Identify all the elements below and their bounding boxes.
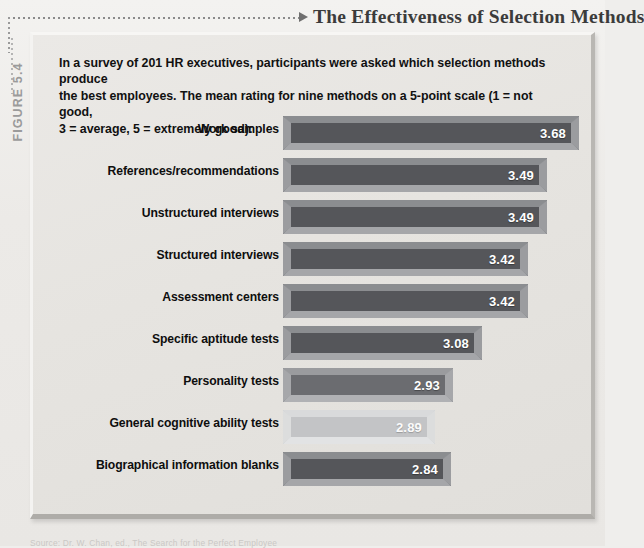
bar-top <box>283 116 579 123</box>
bar: 2.93 <box>283 368 453 402</box>
source-caption: Source: Dr. W. Chan, ed., The Search for… <box>30 538 277 548</box>
chart-row: Assessment centers3.42 <box>33 281 591 323</box>
figure-header: The Effectiveness of Selection Methods <box>0 0 605 34</box>
bar: 3.42 <box>283 284 528 318</box>
bar-category-label: Unstructured interviews <box>142 206 279 220</box>
dotted-leader-line <box>8 17 300 19</box>
figure-number-label: FIGURE 5.4 <box>11 62 25 142</box>
bar-value-label: 3.49 <box>508 158 534 192</box>
figure-title: The Effectiveness of Selection Methods <box>313 6 644 28</box>
chart-row: Structured interviews3.42 <box>33 239 591 281</box>
leader-arrow-icon <box>299 12 308 22</box>
bar-category-label: Biographical information blanks <box>96 458 279 472</box>
bar: 3.68 <box>283 116 579 150</box>
bar: 3.49 <box>283 200 547 234</box>
bar-value-label: 3.42 <box>489 242 515 276</box>
bar-category-label: Structured interviews <box>156 248 279 262</box>
intro-line-1: In a survey of 201 HR executives, partic… <box>59 55 559 88</box>
bar-category-label: Work samples <box>198 122 279 136</box>
chart-row: General cognitive ability tests2.89 <box>33 407 591 449</box>
bar-value-label: 3.42 <box>489 284 515 318</box>
figure-panel: In a survey of 201 HR executives, partic… <box>30 32 595 519</box>
bar-value-label: 2.84 <box>412 452 438 486</box>
dotted-vertical-line <box>8 17 10 53</box>
bar-value-label: 2.89 <box>396 410 422 444</box>
chart-row: Work samples3.68 <box>33 113 591 155</box>
chart-row: References/recommendations3.49 <box>33 155 591 197</box>
chart-row: Personality tests2.93 <box>33 365 591 407</box>
bar: 3.08 <box>283 326 482 360</box>
bar-bottom <box>283 143 579 150</box>
bar: 2.84 <box>283 452 451 486</box>
bar-chart: Work samples3.68References/recommendatio… <box>33 113 591 491</box>
bar: 3.42 <box>283 242 528 276</box>
bar-value-label: 2.93 <box>414 368 440 402</box>
chart-row: Specific aptitude tests3.08 <box>33 323 591 365</box>
bar-category-label: Specific aptitude tests <box>152 332 279 346</box>
bar-value-label: 3.68 <box>540 116 566 150</box>
bar: 2.89 <box>283 410 435 444</box>
bar-value-label: 3.08 <box>443 326 469 360</box>
chart-row: Unstructured interviews3.49 <box>33 197 591 239</box>
bar-category-label: References/recommendations <box>108 164 279 178</box>
chart-row: Biographical information blanks2.84 <box>33 449 591 491</box>
bar: 3.49 <box>283 158 547 192</box>
bar-category-label: Assessment centers <box>162 290 279 304</box>
bar-category-label: General cognitive ability tests <box>109 416 279 430</box>
bar-category-label: Personality tests <box>183 374 279 388</box>
bar-value-label: 3.49 <box>508 200 534 234</box>
